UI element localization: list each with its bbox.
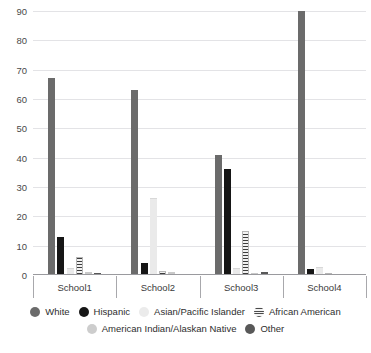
y-tick-label: 70 <box>16 64 27 75</box>
legend-label: Hispanic <box>94 306 130 317</box>
legend-swatch-icon <box>254 307 264 317</box>
legend-label: Asian/Pacific Islander <box>154 306 245 317</box>
y-tick-label: 20 <box>16 211 27 222</box>
bar-school1-3 <box>76 257 83 275</box>
bar-school3-3 <box>242 231 249 275</box>
category-separator <box>200 276 201 298</box>
legend-swatch-icon <box>30 307 40 317</box>
category-axis: School1School2School3School4 <box>33 276 366 298</box>
legend-label: Other <box>260 323 284 334</box>
bar-school4-0 <box>298 11 305 275</box>
bar-group-school3 <box>200 11 283 275</box>
y-tick-label: 90 <box>16 6 27 17</box>
legend-swatch-icon <box>139 307 149 317</box>
bar-school1-1 <box>57 237 64 275</box>
chart-legend: WhiteHispanicAsian/Pacific IslanderAfric… <box>0 306 371 340</box>
bar-group-school1 <box>33 11 116 275</box>
legend-item-other[interactable]: Other <box>245 323 284 334</box>
legend-item-white[interactable]: White <box>30 306 69 317</box>
bar-school3-0 <box>215 155 222 275</box>
legend-swatch-icon <box>245 324 255 334</box>
y-tick-label: 50 <box>16 123 27 134</box>
plot-area <box>33 11 366 275</box>
legend-row-2: American Indian/Alaskan NativeOther <box>0 323 371 334</box>
category-label-school2: School2 <box>116 276 199 298</box>
y-tick-label: 0 <box>22 270 27 281</box>
category-label-school3: School3 <box>200 276 283 298</box>
bar-school2-2 <box>150 198 157 275</box>
category-separator <box>283 276 284 298</box>
legend-label: American Indian/Alaskan Native <box>102 323 237 334</box>
bar-group-school4 <box>283 11 366 275</box>
bar-school2-0 <box>131 90 138 275</box>
bar-group-school2 <box>116 11 199 275</box>
legend-swatch-icon <box>87 324 97 334</box>
y-tick-label: 30 <box>16 182 27 193</box>
y-tick-label: 80 <box>16 35 27 46</box>
legend-label: African American <box>269 306 341 317</box>
category-separator <box>116 276 117 298</box>
bar-school3-1 <box>224 169 231 275</box>
legend-item-american-indian-alaskan-native[interactable]: American Indian/Alaskan Native <box>87 323 237 334</box>
legend-label: White <box>45 306 69 317</box>
chart-title-cropped <box>0 0 371 7</box>
bar-school1-0 <box>48 78 55 275</box>
legend-row-1: WhiteHispanicAsian/Pacific IslanderAfric… <box>0 306 371 317</box>
y-tick-label: 40 <box>16 152 27 163</box>
legend-item-african-american[interactable]: African American <box>254 306 341 317</box>
y-tick-label: 60 <box>16 94 27 105</box>
bar-groups <box>33 11 366 275</box>
legend-item-asian-pacific-islander[interactable]: Asian/Pacific Islander <box>139 306 245 317</box>
category-separator <box>366 276 367 298</box>
category-label-school1: School1 <box>33 276 116 298</box>
legend-swatch-icon <box>79 307 89 317</box>
y-axis-labels: 0102030405060708090 <box>0 11 31 275</box>
category-separator <box>33 276 34 298</box>
x-axis-line <box>33 274 366 275</box>
bar-chart: 0102030405060708090 School1School2School… <box>0 0 371 353</box>
category-label-school4: School4 <box>283 276 366 298</box>
y-tick-label: 10 <box>16 240 27 251</box>
legend-item-hispanic[interactable]: Hispanic <box>79 306 130 317</box>
